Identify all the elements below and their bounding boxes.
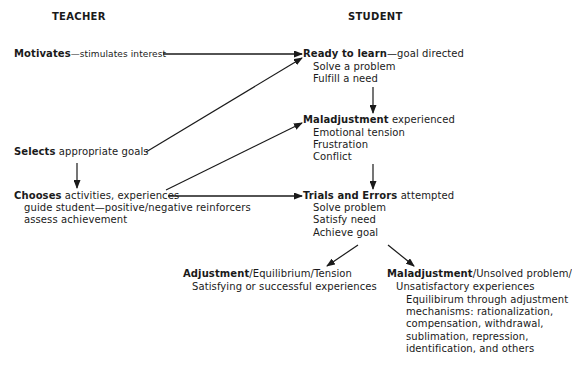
trials-line-3: Achieve goal — [313, 227, 378, 239]
ready-label: Ready to learn — [303, 48, 387, 59]
adjustment-line-1: Satisfying or successful experiences — [192, 281, 377, 293]
teacher-motivates: Motivates—stimulates interest — [14, 48, 166, 60]
student-header: STUDENT — [348, 11, 403, 23]
adjustment-desc: /Equilibrium/Tension — [249, 268, 352, 279]
maladjustment-outcome-line-4: sublimation, repression, — [406, 331, 529, 343]
maladjustment-line-3: Conflict — [313, 151, 352, 163]
teacher-selects: Selects appropriate goals — [14, 146, 149, 158]
arrow-trials-to-adjustment — [327, 245, 358, 266]
arrow-trials-to-maladjustment-outcome — [388, 245, 414, 266]
maladjustment-outcome-subtitle: Unsatisfactory experiences — [396, 281, 535, 293]
maladjustment-outcome-desc: /Unsolved problem/ — [473, 268, 572, 279]
trials-label: Trials and Errors — [303, 190, 397, 201]
teacher-chooses: Chooses activities, experiences — [14, 190, 179, 202]
trials-line-1: Solve problem — [313, 202, 386, 214]
maladjustment-line-1: Emotional tension — [313, 127, 405, 139]
student-trials: Trials and Errors attempted — [303, 190, 454, 202]
chooses-desc: activities, experiences — [62, 190, 180, 201]
ready-desc: —goal directed — [387, 48, 464, 59]
maladjustment-desc: experienced — [389, 114, 455, 125]
motivates-desc: —stimulates interest — [71, 49, 166, 59]
trials-desc: attempted — [397, 190, 454, 201]
maladjustment-outcome-line-3: compensation, withdrawal, — [406, 318, 544, 330]
ready-line-1: Solve a problem — [313, 61, 396, 73]
teacher-header: TEACHER — [52, 11, 106, 23]
maladjustment-outcome-line-2: mechanisms: rationalization, — [406, 306, 553, 318]
student-maladjustment: Maladjustment experienced — [303, 114, 455, 126]
student-ready: Ready to learn—goal directed — [303, 48, 464, 60]
selects-label: Selects — [14, 146, 56, 157]
arrow-selects-to-ready — [146, 58, 302, 152]
trials-line-2: Satisfy need — [313, 214, 376, 226]
chooses-line-1: guide student—positive/negative reinforc… — [24, 202, 251, 214]
motivates-label: Motivates — [14, 48, 71, 59]
maladjustment-outcome-label: Maladjustment — [387, 268, 473, 279]
chooses-label: Chooses — [14, 190, 62, 201]
arrow-chooses-to-maladjustment — [166, 123, 302, 190]
outcome-adjustment: Adjustment/Equilibrium/Tension — [183, 268, 352, 280]
maladjustment-line-2: Frustration — [313, 139, 368, 151]
ready-line-2: Fulfill a need — [313, 73, 378, 85]
maladjustment-outcome-line-1: Equilibirum through adjustment — [406, 294, 568, 306]
selects-desc: appropriate goals — [56, 146, 149, 157]
chooses-line-2: assess achievement — [24, 214, 127, 226]
maladjustment-outcome-line-5: identification, and others — [406, 343, 534, 355]
adjustment-label: Adjustment — [183, 268, 249, 279]
outcome-maladjustment: Maladjustment/Unsolved problem/ — [387, 268, 572, 280]
maladjustment-label: Maladjustment — [303, 114, 389, 125]
